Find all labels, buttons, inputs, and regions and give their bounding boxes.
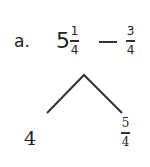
bond-left-value: 4: [24, 127, 36, 149]
numerator: 5: [122, 117, 130, 130]
fraction-bar: [121, 132, 130, 134]
denominator: 4: [122, 136, 130, 149]
bond-right-fraction: 5 4: [121, 117, 130, 149]
